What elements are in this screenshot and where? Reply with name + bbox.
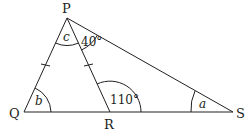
- vertex-label-r: R: [104, 117, 115, 132]
- angle-label-40: 40°: [81, 35, 102, 49]
- segment-ps: [67, 18, 233, 112]
- angle-label-110: 110°: [110, 93, 139, 107]
- vertex-label-p: P: [62, 1, 71, 16]
- angle-label-c: c: [63, 30, 70, 44]
- angle-arc-a: [191, 91, 195, 112]
- triangle-diagram: P Q R S c 40° b 110° a: [0, 0, 252, 136]
- vertex-label-q: Q: [9, 106, 20, 121]
- vertex-label-s: S: [236, 106, 245, 121]
- angle-label-a: a: [199, 97, 206, 111]
- angle-label-b: b: [35, 94, 43, 108]
